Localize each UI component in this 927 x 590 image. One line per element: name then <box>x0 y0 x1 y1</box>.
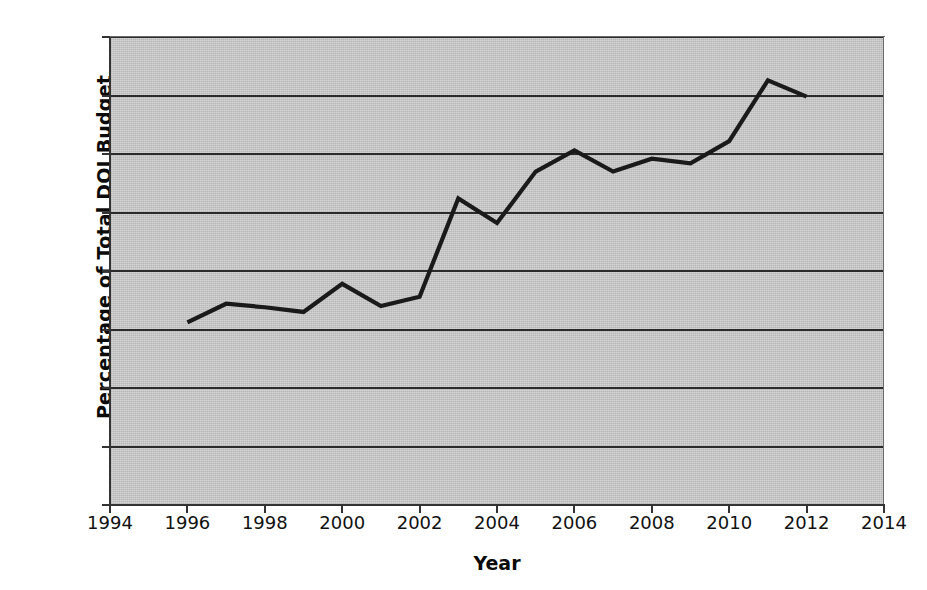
x-axis-tick-mark <box>806 505 808 513</box>
y-axis-tick-mark <box>102 36 110 38</box>
x-axis-tick-mark <box>651 505 653 513</box>
line-series <box>110 37 884 505</box>
data-line <box>187 80 806 322</box>
x-axis-tick-mark <box>883 505 885 513</box>
y-axis-tick-mark <box>102 212 110 214</box>
y-axis-tick-mark <box>102 153 110 155</box>
x-axis-tick-mark <box>341 505 343 513</box>
plot-border-right <box>883 37 884 506</box>
x-axis-tick-mark <box>496 505 498 513</box>
y-axis-tick-mark <box>102 270 110 272</box>
x-axis-tick-mark <box>264 505 266 513</box>
x-axis-tick-mark <box>109 505 111 513</box>
x-axis-tick-mark <box>728 505 730 513</box>
x-axis-tick-mark <box>186 505 188 513</box>
x-axis-tick-mark <box>573 505 575 513</box>
x-axis-title: Year <box>110 552 884 574</box>
x-axis-tick-label: 2014 <box>839 512 927 533</box>
plot-border-top <box>109 36 885 37</box>
y-axis-tick-mark <box>102 446 110 448</box>
y-axis-tick-mark <box>102 329 110 331</box>
plot-area <box>110 37 884 505</box>
y-axis-tick-mark <box>102 387 110 389</box>
y-axis-tick-mark <box>102 95 110 97</box>
chart-figure: Percentage of Total DOJ Budget 00.050.10… <box>0 0 927 590</box>
x-axis-tick-mark <box>419 505 421 513</box>
